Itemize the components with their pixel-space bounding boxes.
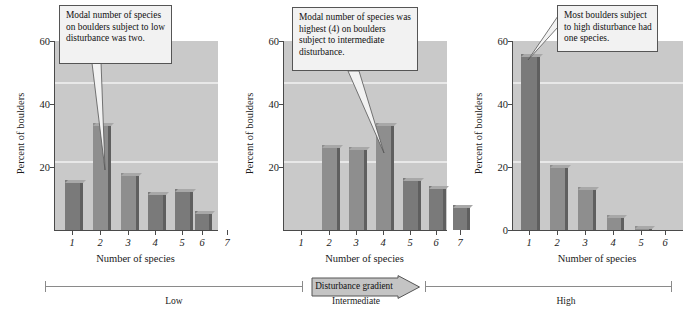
gradient-axis-low — [45, 286, 303, 287]
gradient-axis-high — [425, 286, 672, 287]
callout-intermediate: Modal number of species was highest (4) … — [292, 7, 418, 71]
disturbance-gradient: Low Disturbance gradient Intermediate Hi… — [0, 270, 688, 322]
gradient-label-intermediate: Intermediate — [332, 296, 380, 306]
gradient-tick-left — [45, 281, 46, 292]
callout-low: Modal number of species on boulders subj… — [59, 5, 172, 64]
gradient-arrow-label: Disturbance gradient — [311, 281, 397, 291]
chart-panel-high: Percent of boulders 60 40 20 0 1 2 3 4 5… — [458, 0, 688, 270]
gradient-tick-right — [671, 281, 672, 292]
chart-panel-intermediate: Percent of boulders 60 40 20 1 2 3 4 5 6… — [229, 0, 459, 270]
callout-high: Most boulders subject to high disturbanc… — [557, 5, 658, 52]
chart-panel-low: Percent of boulders 60 40 20 1 2 3 4 5 6… — [0, 0, 230, 270]
gradient-tick-mid-left — [302, 281, 303, 292]
gradient-label-high: High — [557, 296, 576, 306]
gradient-tick-mid-right — [425, 281, 426, 292]
gradient-label-low: Low — [165, 296, 182, 306]
